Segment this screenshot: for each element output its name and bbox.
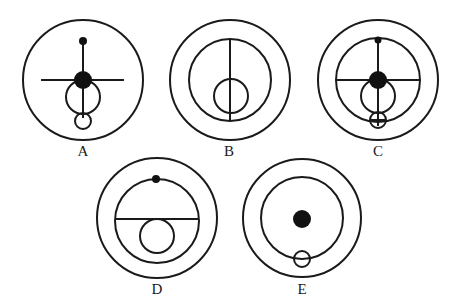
figure-c: C — [318, 20, 438, 159]
diagram-canvas: A B C D E — [0, 0, 461, 307]
figure-e: E — [243, 159, 361, 297]
large-dot — [369, 71, 387, 89]
large-dot — [74, 71, 92, 89]
small-dot — [375, 37, 382, 44]
figure-b: B — [170, 20, 290, 159]
figure-label: E — [297, 281, 306, 297]
figure-d: D — [97, 158, 217, 297]
small-dot — [152, 175, 160, 183]
figure-label: D — [152, 281, 163, 297]
figure-label: B — [224, 143, 234, 159]
large-dot — [293, 210, 311, 228]
small-dot — [79, 37, 87, 45]
figure-label: C — [373, 143, 383, 159]
medium-circle — [140, 219, 174, 253]
inner-circle — [115, 179, 199, 263]
figure-label: A — [78, 143, 89, 159]
figure-a: A — [23, 20, 143, 159]
